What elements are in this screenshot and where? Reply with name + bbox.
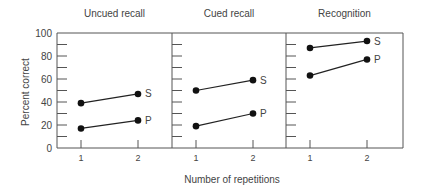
series-line bbox=[196, 80, 253, 90]
y-tick-label: 40 bbox=[41, 97, 53, 108]
series-line bbox=[196, 114, 253, 127]
series-label: P bbox=[145, 115, 152, 126]
series-line bbox=[310, 41, 367, 48]
data-point bbox=[364, 56, 371, 63]
series-label: P bbox=[374, 54, 381, 65]
y-tick-label: 0 bbox=[46, 143, 52, 154]
x-tick-label: 2 bbox=[135, 153, 140, 163]
series-S: S bbox=[78, 88, 152, 106]
panel-title: Cued recall bbox=[204, 8, 255, 19]
series-S: S bbox=[193, 75, 267, 94]
data-point bbox=[307, 72, 314, 79]
series-label: S bbox=[374, 36, 381, 47]
y-tick-label: 60 bbox=[41, 74, 53, 85]
y-axis-label: Percent correct bbox=[20, 58, 31, 126]
series-label: S bbox=[260, 75, 267, 86]
series-P: P bbox=[193, 108, 267, 129]
x-tick-label: 2 bbox=[364, 153, 369, 163]
series-line bbox=[81, 94, 138, 103]
x-tick-label: 1 bbox=[78, 153, 83, 163]
data-point bbox=[364, 38, 371, 45]
series-line bbox=[81, 120, 138, 128]
panel-cued-recall: Cued recall12SP bbox=[172, 8, 267, 163]
data-point bbox=[250, 110, 257, 117]
series-P: P bbox=[78, 115, 152, 132]
series-label: P bbox=[260, 108, 267, 119]
x-tick-label: 1 bbox=[307, 153, 312, 163]
data-point bbox=[78, 100, 85, 107]
panel-title: Recognition bbox=[318, 8, 371, 19]
data-point bbox=[193, 87, 200, 94]
plot-frame bbox=[57, 33, 403, 148]
y-axis: 020406080100 bbox=[35, 28, 52, 154]
series-label: S bbox=[145, 88, 152, 99]
chart: 020406080100 Uncued recall12SPCued recal… bbox=[0, 0, 423, 195]
series-S: S bbox=[307, 36, 381, 52]
series-P: P bbox=[307, 54, 381, 79]
data-point bbox=[250, 77, 257, 84]
data-point bbox=[78, 125, 85, 132]
panel-recognition: Recognition12SP bbox=[286, 8, 381, 163]
panel-title: Uncued recall bbox=[84, 8, 145, 19]
data-point bbox=[135, 91, 142, 98]
panels: Uncued recall12SPCued recall12SPRecognit… bbox=[57, 8, 381, 163]
y-tick-label: 20 bbox=[41, 120, 53, 131]
panel-uncued-recall: Uncued recall12SP bbox=[57, 8, 152, 163]
data-point bbox=[307, 45, 314, 52]
series-line bbox=[310, 59, 367, 75]
y-tick-label: 100 bbox=[35, 28, 52, 39]
y-tick-label: 80 bbox=[41, 51, 53, 62]
x-axis-label: Number of repetitions bbox=[184, 174, 280, 185]
data-point bbox=[193, 123, 200, 130]
x-tick-label: 1 bbox=[193, 153, 198, 163]
data-point bbox=[135, 117, 142, 124]
x-tick-label: 2 bbox=[250, 153, 255, 163]
